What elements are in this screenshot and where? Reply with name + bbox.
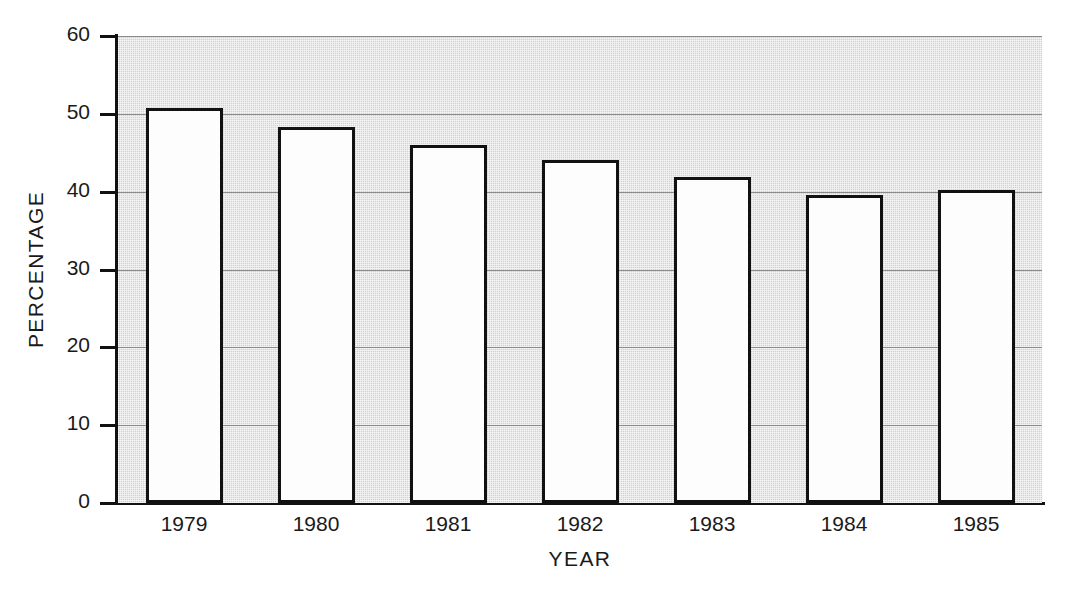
y-axis-title: PERCENTAGE: [22, 36, 50, 503]
bar: [674, 177, 751, 503]
y-axis-tick: [100, 35, 118, 38]
bar: [542, 160, 619, 503]
x-axis-tick-label: 1982: [514, 512, 646, 536]
x-axis-tick-label: 1981: [382, 512, 514, 536]
x-axis-tick-label: 1980: [250, 512, 382, 536]
y-axis-tick-label-text: 10: [67, 411, 90, 435]
y-axis-tick: [100, 191, 118, 194]
y-axis-tick-label-text: 40: [67, 178, 90, 202]
bar: [410, 145, 487, 503]
y-axis-tick-label-text: 30: [67, 256, 90, 280]
x-axis-tick-label: 1984: [778, 512, 910, 536]
bar: [806, 195, 883, 503]
y-axis-tick: [100, 113, 118, 116]
y-axis-tick: [100, 269, 118, 272]
x-axis-tick-label: 1979: [118, 512, 250, 536]
y-axis-tick-label-text: 20: [67, 333, 90, 357]
y-axis-tick: [100, 502, 118, 505]
gridline: [118, 36, 1042, 37]
bar: [938, 190, 1015, 503]
y-axis-tick: [100, 424, 118, 427]
y-axis-tick: [100, 346, 118, 349]
x-axis-tick-label: 1985: [910, 512, 1042, 536]
bar-chart-figure: PERCENTAGE YEAR 010203040506019791980198…: [0, 0, 1091, 589]
bar: [278, 127, 355, 503]
y-axis-tick-label-text: 0: [78, 489, 90, 513]
y-axis-tick-label-text: 60: [67, 22, 90, 46]
gridline: [118, 114, 1042, 115]
y-axis-tick-label-text: 50: [67, 100, 90, 124]
x-axis-tick-label: 1983: [646, 512, 778, 536]
bar: [146, 108, 223, 503]
x-axis-title: YEAR: [118, 547, 1042, 571]
